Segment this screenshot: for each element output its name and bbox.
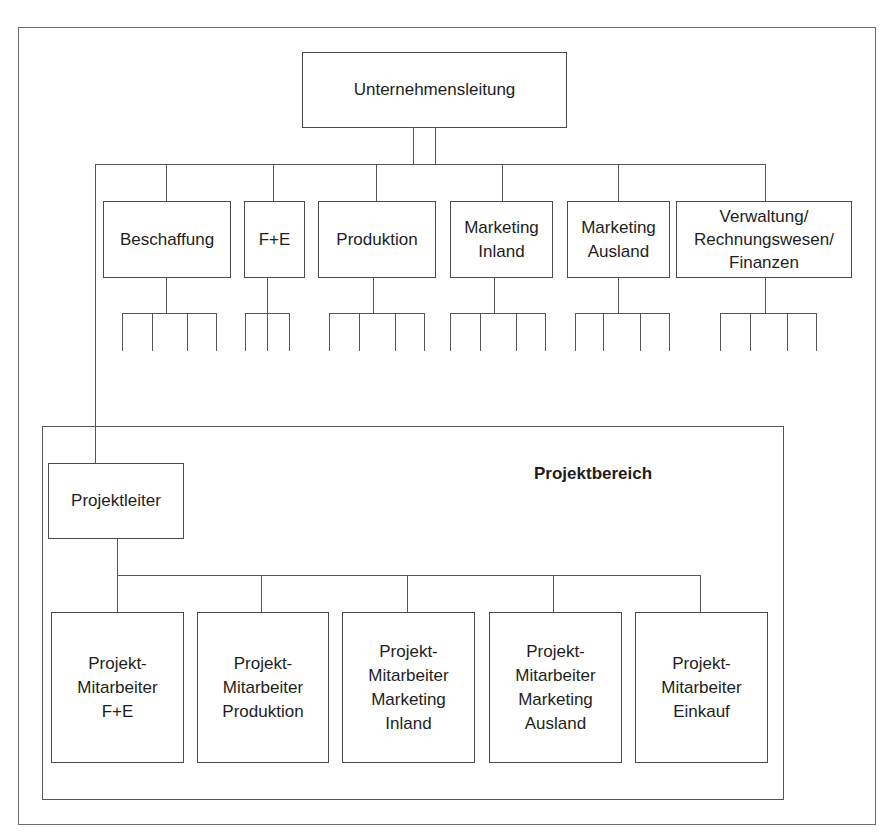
connector-drop-beschaffung xyxy=(166,164,167,201)
node-label: Projektleiter xyxy=(71,489,161,513)
sub-unit-stub xyxy=(395,313,396,351)
connector-drop-fe xyxy=(273,164,274,201)
node-verwaltung: Verwaltung/ Rechnungswesen/ Finanzen xyxy=(676,201,852,278)
connector-drop-verwaltung xyxy=(765,164,766,201)
sub-unit-stub xyxy=(267,313,268,351)
connector-member-drop xyxy=(700,575,701,612)
sub-unit-stub xyxy=(289,313,290,351)
connector-member-drop xyxy=(261,575,262,612)
connector-sub-bar xyxy=(575,313,670,314)
sub-unit-stub xyxy=(216,313,217,351)
node-member-fe: Projekt- Mitarbeiter F+E xyxy=(51,612,184,763)
connector-sub-drop xyxy=(494,277,495,313)
connector-drop-produktion xyxy=(376,164,377,201)
sub-unit-stub xyxy=(359,313,360,351)
node-label: Beschaffung xyxy=(120,228,214,252)
sub-unit-stub xyxy=(787,313,788,351)
connector-to-projektleiter xyxy=(95,164,96,463)
node-unternehmensleitung: Unternehmensleitung xyxy=(302,52,567,128)
connector-sub-bar xyxy=(720,313,816,314)
connector-drop-marketing-ausland xyxy=(618,164,619,201)
sub-unit-stub xyxy=(603,313,604,351)
node-member-einkauf: Projekt- Mitarbeiter Einkauf xyxy=(635,612,768,763)
node-beschaffung: Beschaffung xyxy=(103,201,231,278)
connector-drop-marketing-inland xyxy=(502,164,503,201)
sub-unit-stub xyxy=(720,313,721,351)
connector-leader-drop xyxy=(117,538,118,575)
node-label: Verwaltung/ Rechnungswesen/ Finanzen xyxy=(694,205,834,274)
sub-unit-stub xyxy=(152,313,153,351)
connector-sub-drop xyxy=(166,277,167,313)
connector-sub-drop xyxy=(765,277,766,313)
sub-unit-stub xyxy=(329,313,330,351)
sub-unit-stub xyxy=(816,313,817,351)
sub-unit-stub xyxy=(545,313,546,351)
node-label: Projekt- Mitarbeiter Marketing Ausland xyxy=(515,640,595,736)
project-area-title: Projektbereich xyxy=(534,464,652,484)
node-label: Projekt- Mitarbeiter Produktion xyxy=(222,652,303,724)
sub-unit-stub xyxy=(575,313,576,351)
node-produktion: Produktion xyxy=(318,201,436,278)
node-label: Projekt- Mitarbeiter F+E xyxy=(77,652,157,724)
connector-sub-drop xyxy=(373,277,374,313)
node-marketing-inland: Marketing Inland xyxy=(450,201,553,278)
connector-root-left xyxy=(413,127,414,164)
connector-root-right xyxy=(435,127,436,164)
node-member-produktion: Projekt- Mitarbeiter Produktion xyxy=(197,612,329,763)
node-marketing-ausland: Marketing Ausland xyxy=(567,201,670,278)
sub-unit-stub xyxy=(187,313,188,351)
connector-member-drop xyxy=(553,575,554,612)
node-member-marketing-inland: Projekt- Mitarbeiter Marketing Inland xyxy=(342,612,475,763)
connector-sub-bar xyxy=(329,313,424,314)
node-label: Produktion xyxy=(336,228,417,252)
sub-unit-stub xyxy=(424,313,425,351)
connector-member-drop xyxy=(407,575,408,612)
node-label: Projekt- Mitarbeiter Marketing Inland xyxy=(368,640,448,736)
connector-sub-bar xyxy=(450,313,545,314)
node-fe: F+E xyxy=(244,201,305,278)
connector-sub-drop xyxy=(267,277,268,313)
sub-unit-stub xyxy=(245,313,246,351)
node-member-marketing-ausland: Projekt- Mitarbeiter Marketing Ausland xyxy=(489,612,622,763)
sub-unit-stub xyxy=(122,313,123,351)
node-label: Marketing Inland xyxy=(464,216,539,264)
node-label: F+E xyxy=(259,228,291,252)
sub-unit-stub xyxy=(516,313,517,351)
sub-unit-stub xyxy=(640,313,641,351)
node-label: Unternehmensleitung xyxy=(354,78,516,102)
sub-unit-stub xyxy=(480,313,481,351)
node-label: Projekt- Mitarbeiter Einkauf xyxy=(661,652,741,724)
node-label: Marketing Ausland xyxy=(581,216,656,264)
sub-unit-stub xyxy=(750,313,751,351)
sub-unit-stub xyxy=(669,313,670,351)
connector-members-bus xyxy=(117,575,700,576)
node-projektleiter: Projektleiter xyxy=(48,463,184,539)
connector-sub-drop xyxy=(618,277,619,313)
connector-sub-bar xyxy=(122,313,216,314)
sub-unit-stub xyxy=(450,313,451,351)
connector-main-bus xyxy=(95,164,765,165)
connector-member-drop xyxy=(117,575,118,612)
